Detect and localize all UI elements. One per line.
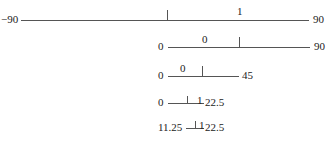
interval-left-bound: 0: [158, 41, 164, 52]
interval-left-bound: 0: [158, 70, 164, 81]
interval-right-bound: 22.5: [205, 97, 224, 108]
interval-right-bound: 90: [314, 41, 325, 52]
midpoint-tick: [167, 10, 168, 20]
interval-line: [21, 20, 309, 21]
interval-right-bound: 22.5: [205, 122, 224, 133]
bit-label: 0: [180, 63, 186, 74]
bit-label: 1: [197, 95, 203, 106]
interval-row-2: 0 0 90: [0, 37, 330, 59]
interval-line: [168, 47, 310, 48]
interval-left-bound: 11.25: [158, 122, 182, 133]
interval-right-bound: 90: [313, 14, 324, 25]
interval-line: [168, 76, 239, 77]
interval-right-bound: 45: [242, 70, 253, 81]
interval-row-1: −90 1 90: [0, 10, 330, 32]
interval-left-bound: 0: [158, 97, 164, 108]
bit-label: 0: [202, 34, 208, 45]
interval-row-3: 0 0 45: [0, 66, 330, 88]
interval-left-bound: −90: [1, 14, 18, 25]
bit-label: 1: [199, 120, 205, 131]
midpoint-tick: [195, 121, 196, 128]
midpoint-tick: [239, 37, 240, 47]
midpoint-tick: [187, 96, 188, 103]
interval-row-4: 0 1 22.5: [0, 93, 330, 115]
interval-row-5: 11.25 1 22.5: [0, 118, 330, 140]
midpoint-tick: [202, 66, 203, 76]
bit-label: 1: [237, 6, 243, 17]
